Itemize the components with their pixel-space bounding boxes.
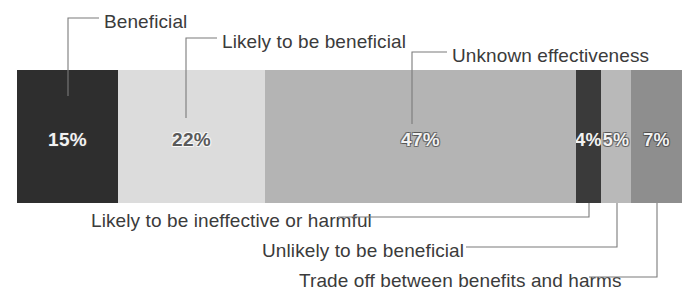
bar-segment-value-likely-beneficial: 22% [172,130,211,149]
bar-segment-value-tradeoff: 7% [643,131,670,149]
chart-canvas: Beneficial Likely to be beneficial Unkno… [0,0,698,302]
leader-line-unlikely-beneficial [466,203,617,247]
bar-segment-value-beneficial: 15% [48,130,87,149]
bar-segment-likely-beneficial[interactable]: 22% [118,70,265,203]
bar-segment-value-unknown-effectiveness: 47% [401,130,440,149]
bar-segment-unlikely-beneficial[interactable]: 5% [601,70,631,203]
callout-label-beneficial: Beneficial [104,12,187,31]
bar-segment-unknown-effectiveness[interactable]: 47% [265,70,576,203]
callout-label-tradeoff: Trade off between benefits and harms [299,271,622,290]
callout-label-unlikely-beneficial: Unlikely to be beneficial [262,241,464,260]
stacked-bar: 15% 22% 47% 4% 5% 7% [17,70,682,203]
bar-segment-value-ineffective-or-harmful: 4% [576,131,601,149]
bar-segment-value-unlikely-beneficial: 5% [603,131,630,149]
leader-line-ineffective-or-harmful [338,203,589,217]
callout-label-ineffective-or-harmful: Likely to be ineffective or harmful [91,211,372,230]
bar-segment-beneficial[interactable]: 15% [17,70,118,203]
leader-line-tradeoff [589,203,657,277]
bar-segment-ineffective-or-harmful[interactable]: 4% [576,70,601,203]
bar-segment-tradeoff[interactable]: 7% [631,70,682,203]
callout-label-likely-beneficial: Likely to be beneficial [222,32,406,51]
callout-label-unknown-effectiveness: Unknown effectiveness [452,46,649,65]
